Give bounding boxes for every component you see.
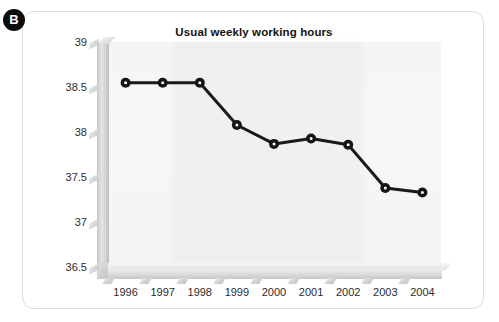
- data-series-layer: 1996: 38.571997: 38.571998: 38.571999: 3…: [23, 12, 485, 310]
- data-point-marker[interactable]: 1998: 38.57: [195, 78, 205, 88]
- data-point-marker[interactable]: 1996: 38.57: [121, 78, 131, 88]
- series-line: [126, 83, 423, 193]
- data-point-marker[interactable]: 2003: 37.4: [380, 183, 390, 193]
- data-point-marker[interactable]: 2002: 37.88: [343, 140, 353, 150]
- data-point-marker[interactable]: 2004: 37.35: [417, 188, 427, 198]
- data-point-marker[interactable]: 1999: 38.1: [232, 120, 242, 130]
- data-point-marker[interactable]: 2001: 37.95: [306, 134, 316, 144]
- panel-letter-badge: B: [3, 9, 25, 31]
- chart-panel: Usual weekly working hours 3938.53837.53…: [22, 11, 484, 309]
- data-point-marker[interactable]: 1997: 38.57: [158, 78, 168, 88]
- data-point-marker[interactable]: 2000: 37.89: [269, 139, 279, 149]
- plot-area: 3938.53837.53736.5 199619971998199920002…: [23, 12, 485, 310]
